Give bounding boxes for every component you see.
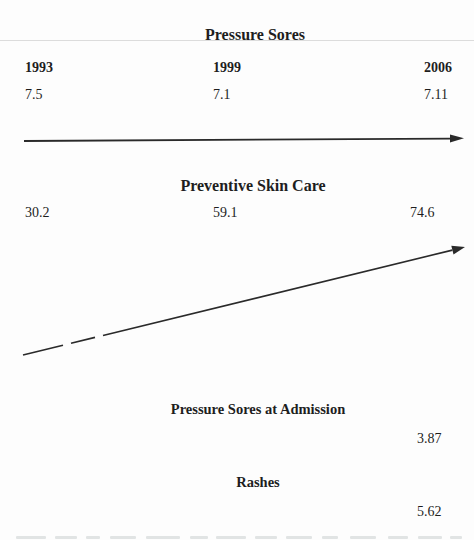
skin-care-value-1999: 59.1 xyxy=(213,205,238,220)
year-label-1999: 1999 xyxy=(213,60,241,75)
section-title-pressure-sores: Pressure Sores xyxy=(205,26,305,44)
skin-care-value-1993: 30.2 xyxy=(25,205,50,220)
year-label-2006: 2006 xyxy=(424,60,452,75)
section-title-rashes: Rashes xyxy=(236,475,280,491)
pressure-sores-value-1993: 7.5 xyxy=(25,87,43,102)
figure-canvas: Pressure Sores 1993 1999 2006 7.5 7.1 7.… xyxy=(0,0,474,540)
admission-value-2006: 3.87 xyxy=(417,431,442,446)
year-label-1993: 1993 xyxy=(25,60,53,75)
cropped-caption-remnants xyxy=(0,535,474,540)
flat-trend-arrow xyxy=(0,125,474,155)
pressure-sores-value-1999: 7.1 xyxy=(213,87,231,102)
skin-care-value-2006: 74.6 xyxy=(410,205,435,220)
rising-trend-arrow xyxy=(0,235,474,365)
rashes-value-2006: 5.62 xyxy=(417,504,442,519)
section-title-pressure-sores-at-admission: Pressure Sores at Admission xyxy=(171,402,345,418)
section-title-preventive-skin-care: Preventive Skin Care xyxy=(180,177,325,195)
pressure-sores-value-2006: 7.11 xyxy=(424,87,448,102)
